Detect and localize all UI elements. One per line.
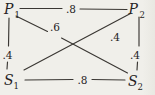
edge-line-S1-S2	[92, 80, 125, 81]
edge-weight-label-P1-P2: .8	[66, 3, 76, 15]
node-subscript-P1: 1	[15, 10, 20, 20]
node-letter-P2: P	[128, 1, 139, 17]
edge-weight-label-P2-S2: .4	[130, 49, 140, 61]
edge-weight-label-P1-S1: .4	[2, 49, 12, 61]
scanned-graph-figure: .8.8.4.4.6.4P1P2S1S2	[0, 0, 155, 95]
edge-weight-label-P1-S2: .6	[50, 21, 60, 33]
edge-line-P1-P2	[80, 9, 127, 10]
node-letter-P1: P	[3, 1, 14, 17]
edge-weight-label-S1-P2: .4	[110, 31, 120, 43]
node-letter-S1: S	[4, 72, 14, 88]
node-letter-S2: S	[128, 73, 138, 89]
node-subscript-S2: 2	[138, 82, 143, 92]
node-subscript-P2: 2	[140, 10, 145, 20]
edge-line-S1-S2	[25, 80, 73, 81]
edge-line-P2-S2	[137, 62, 138, 70]
edge-line-P1-S1	[7, 62, 8, 69]
node-subscript-S1: 1	[14, 81, 19, 91]
edge-line-P1-S1	[9, 18, 10, 46]
graph-svg: .8.8.4.4.6.4P1P2S1S2	[0, 0, 155, 95]
edge-weight-label-S1-S2: .8	[77, 74, 87, 86]
